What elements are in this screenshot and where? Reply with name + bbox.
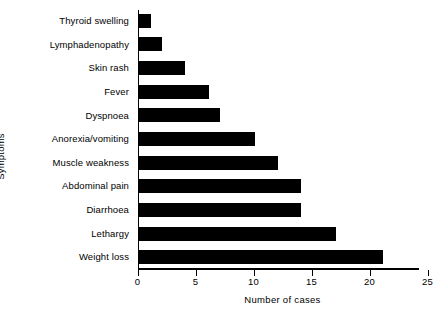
y-tick-label: Diarrhoea [18, 199, 134, 221]
bar [139, 37, 162, 51]
x-tick-label: 20 [364, 276, 375, 287]
x-axis-tick-labels: 0510152025 [138, 276, 428, 290]
bar-row [139, 152, 418, 174]
plot-area [138, 10, 419, 268]
y-tick-label: Weight loss [18, 246, 134, 268]
bar-row [139, 10, 418, 32]
y-tick-label: Muscle weakness [18, 152, 134, 174]
y-tick-label: Dyspnoea [18, 105, 134, 127]
x-tick-mark [312, 270, 313, 276]
bar [139, 132, 255, 146]
bar-series [139, 10, 418, 268]
x-tick-label: 5 [193, 276, 198, 287]
bar [139, 156, 278, 170]
bar-row [139, 199, 418, 221]
x-tick-label: 15 [306, 276, 317, 287]
x-tick-mark [370, 270, 371, 276]
bar [139, 14, 151, 28]
x-axis-title: Number of cases [138, 294, 428, 305]
y-tick-label: Fever [18, 81, 134, 103]
bar [139, 203, 301, 217]
bar [139, 250, 383, 264]
y-tick-label: Lymphadenopathy [18, 34, 134, 56]
y-tick-label: Skin rash [18, 57, 134, 79]
y-tick-label: Thyroid swelling [18, 10, 134, 32]
x-tick-label: 25 [422, 276, 433, 287]
bar-row [139, 105, 418, 127]
bar [139, 227, 336, 241]
bar-row [139, 34, 418, 56]
x-tick-mark [138, 270, 139, 276]
bar [139, 179, 301, 193]
y-axis-tick-labels: Thyroid swelling Lymphadenopathy Skin ra… [18, 10, 134, 268]
bar-row [139, 81, 418, 103]
bar-row [139, 223, 418, 245]
y-tick-label: Lethargy [18, 223, 134, 245]
bar-chart-figure: Symptoms Thyroid swelling Lymphadenopath… [0, 0, 436, 313]
x-tick-mark [196, 270, 197, 276]
bar-row [139, 246, 418, 268]
x-tick-mark [254, 270, 255, 276]
x-axis-tick-marks [138, 270, 428, 276]
x-tick-mark [428, 270, 429, 276]
bar-row [139, 128, 418, 150]
bar [139, 108, 220, 122]
y-tick-label: Anorexia/vomiting [18, 128, 134, 150]
bar [139, 61, 185, 75]
x-tick-label: 10 [248, 276, 259, 287]
x-tick-label: 0 [135, 276, 140, 287]
bar [139, 85, 209, 99]
bar-row [139, 175, 418, 197]
bar-row [139, 57, 418, 79]
y-tick-label: Abdominal pain [18, 175, 134, 197]
